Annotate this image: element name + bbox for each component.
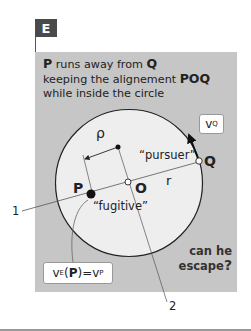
point-q-label: Q — [204, 153, 216, 169]
velocity-p-box: vE(P)=vP — [43, 262, 113, 284]
point-o — [125, 179, 131, 185]
velocity-q-box: vQ — [199, 114, 224, 134]
callout-1: 1 — [12, 204, 19, 218]
point-p-label: P — [73, 180, 83, 196]
radius-label: r — [166, 173, 171, 188]
point-q — [196, 158, 202, 164]
callout-2: 2 — [169, 299, 176, 313]
point-p — [87, 190, 96, 199]
rho-label: ρ — [96, 125, 105, 141]
fugitive-label: “fugitive” — [93, 199, 148, 213]
escape-question: can he escape? — [172, 244, 232, 273]
point-dot — [116, 145, 121, 150]
pursuer-label: “pursuer” — [139, 148, 196, 162]
point-o-label: O — [135, 180, 147, 196]
